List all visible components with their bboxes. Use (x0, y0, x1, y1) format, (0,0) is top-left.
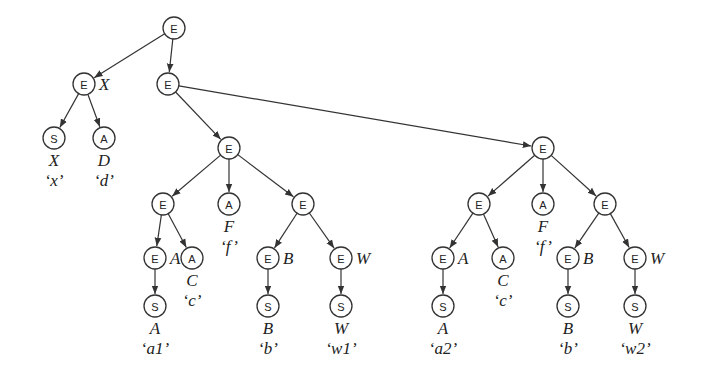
node-value-label: ‘d’ (94, 171, 114, 190)
node-side-label: W (650, 249, 666, 268)
node-type-label: S (631, 301, 638, 313)
node-type-label: E (264, 253, 271, 265)
e-node: E (557, 247, 579, 269)
node-symbol-label: B (563, 319, 574, 338)
node-symbol-label: W (628, 319, 644, 338)
node-symbol-label: B (263, 319, 274, 338)
node-symbol-label: D (97, 151, 111, 170)
node-symbol-label: C (186, 271, 198, 290)
node-type-label: E (337, 253, 344, 265)
a-node: A (532, 193, 554, 215)
edge-arrow (176, 92, 221, 139)
node-type-label: E (225, 143, 232, 155)
node-symbol-label: F (223, 217, 235, 236)
node-value-label: ‘c’ (183, 291, 202, 310)
node-type-label: E (159, 199, 166, 211)
node-type-label: E (164, 79, 171, 91)
node-side-label: A (169, 249, 181, 268)
a-node: A (93, 127, 115, 149)
e-node: E (292, 193, 314, 215)
e-node: E (532, 137, 554, 159)
node-value-label: ‘f’ (220, 237, 238, 256)
e-node: E (73, 73, 95, 95)
node-type-label: E (439, 253, 446, 265)
e-node: E (594, 193, 616, 215)
s-node: S (624, 295, 646, 317)
node-type-label: E (564, 253, 571, 265)
node-type-label: E (539, 143, 546, 155)
node-side-label: W (356, 249, 372, 268)
e-node: E (257, 247, 279, 269)
s-node: S (257, 295, 279, 317)
node-type-label: E (299, 199, 306, 211)
node-symbol-label: F (537, 217, 549, 236)
tree-diagram: EEESAEEAEEAEESSSEEAEEAEESSS XX‘x’D‘d’F‘f… (0, 0, 704, 380)
edge-arrow (169, 39, 173, 72)
node-type-label: E (475, 199, 482, 211)
edge-arrow (168, 214, 186, 248)
edge-arrow (450, 213, 473, 248)
node-value-label: ‘b’ (258, 339, 278, 358)
e-node: E (218, 137, 240, 159)
node-value-label: ‘w1’ (325, 339, 357, 358)
node-type-label: A (188, 253, 196, 265)
node-type-label: S (151, 301, 158, 313)
node-type-label: S (264, 301, 271, 313)
edge-arrow (610, 214, 629, 248)
node-side-label: B (583, 249, 594, 268)
node-side-label: X (98, 75, 110, 94)
e-node: E (330, 247, 352, 269)
node-type-label: S (337, 301, 344, 313)
e-node: E (152, 193, 174, 215)
node-type-label: E (151, 253, 158, 265)
node-type-label: E (601, 199, 608, 211)
node-value-label: ‘x’ (45, 171, 64, 190)
s-node: S (144, 295, 166, 317)
e-node: E (468, 193, 490, 215)
edge-arrow (551, 155, 596, 196)
edge-arrow (483, 214, 498, 247)
node-value-label: ‘f’ (534, 237, 552, 256)
edge-arrow (88, 94, 100, 126)
node-symbol-label: X (48, 151, 60, 170)
e-node: E (624, 247, 646, 269)
node-type-label: A (499, 253, 507, 265)
node-type-label: S (50, 133, 57, 145)
e-node: E (432, 247, 454, 269)
e-node: E (144, 247, 166, 269)
edge-arrow (488, 155, 535, 196)
edge-arrow (309, 213, 334, 248)
node-type-label: E (80, 79, 87, 91)
node-type-label: E (170, 23, 177, 35)
e-node: E (157, 73, 179, 95)
s-node: S (330, 295, 352, 317)
node-type-label: A (100, 133, 108, 145)
edge-arrow (275, 213, 297, 248)
a-node: A (181, 247, 203, 269)
edge-arrow (575, 213, 599, 248)
edge-arrow (238, 155, 294, 197)
nodes-layer: EEESAEEAEEAEESSSEEAEEAEESSS (43, 17, 646, 317)
node-value-label: ‘b’ (558, 339, 578, 358)
node-side-label: A (457, 249, 469, 268)
s-node: S (557, 295, 579, 317)
node-value-label: ‘a1’ (141, 339, 170, 358)
a-node: A (492, 247, 514, 269)
edge-arrow (172, 155, 220, 196)
edge-arrow (60, 94, 79, 128)
s-node: S (43, 127, 65, 149)
edge-arrow (157, 215, 162, 246)
node-type-label: S (564, 301, 571, 313)
e-node: E (163, 17, 185, 39)
node-value-label: ‘a2’ (429, 339, 458, 358)
node-value-label: ‘c’ (494, 291, 513, 310)
node-symbol-label: W (334, 319, 350, 338)
node-type-label: S (439, 301, 446, 313)
node-value-label: ‘w2’ (619, 339, 651, 358)
node-type-label: A (225, 199, 233, 211)
node-symbol-label: A (437, 319, 449, 338)
node-side-label: B (283, 249, 294, 268)
a-node: A (218, 193, 240, 215)
node-type-label: E (631, 253, 638, 265)
edge-arrow (94, 34, 164, 78)
